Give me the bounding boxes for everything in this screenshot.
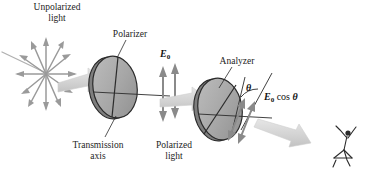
e-symbol-2: E: [264, 91, 271, 102]
e-zero-label: E0: [160, 48, 170, 61]
e-subscript: 0: [167, 53, 171, 61]
polarized-light-label: Polarized light: [137, 140, 211, 161]
polarizer-disk: [84, 53, 170, 122]
cos-text: cos: [277, 91, 290, 102]
unpolarized-light-label: Unpolarized light: [14, 2, 100, 23]
e-zero-cos-theta-label: E0 cos θ: [264, 91, 298, 104]
e-symbol: E: [160, 48, 167, 59]
beam-arrow-transmitted: [254, 119, 311, 147]
polarizer-leader-line: [117, 40, 126, 58]
unpolarized-burst-icon: [2, 40, 74, 108]
figure-canvas: Unpolarized light Polarizer Analyzer Tra…: [0, 0, 375, 180]
polarizer-label: Polarizer: [99, 29, 161, 39]
transmission-axis-label: Transmission axis: [48, 140, 148, 161]
analyzer-label: Analyzer: [206, 56, 268, 66]
theta-symbol-2: θ: [293, 91, 298, 102]
theta-angle-label: θ: [246, 82, 251, 93]
observer-figure-icon: [333, 126, 356, 167]
